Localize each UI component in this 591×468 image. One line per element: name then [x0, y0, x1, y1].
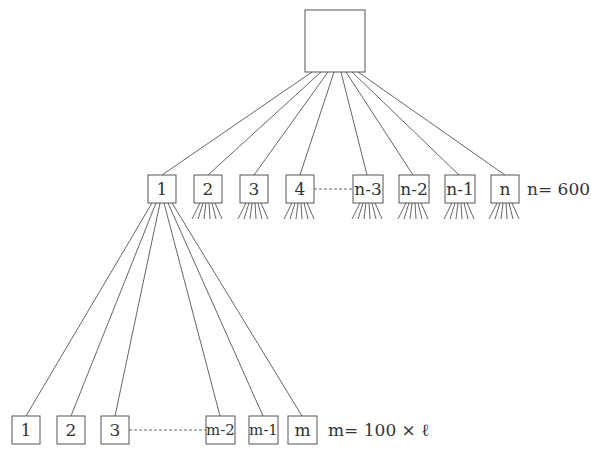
level2-node: 2 [57, 416, 85, 444]
node-label: 2 [203, 179, 214, 199]
level1-node: n-3 [353, 175, 383, 203]
m-annotation: m= 100 × ℓ [328, 420, 429, 440]
level2-node: m-2 [206, 416, 235, 444]
node-label: n-3 [354, 179, 382, 199]
level1-node: 4 [286, 175, 314, 203]
node-label: 4 [295, 179, 306, 199]
level1-node: 2 [194, 175, 222, 203]
level1-node: n-1 [445, 175, 475, 203]
level1-node: 1 [148, 175, 176, 203]
level2-node: 3 [101, 416, 129, 444]
level2-node: 1 [12, 416, 40, 444]
level2-node: m [288, 416, 317, 444]
node-label: m-2 [206, 421, 235, 439]
level2-node: m-1 [249, 416, 278, 444]
node-label: n [500, 179, 511, 199]
n-annotation: n= 600 [527, 179, 590, 199]
node-label: n-1 [446, 179, 474, 199]
level1-node: n [491, 175, 519, 203]
node-label: 2 [66, 420, 77, 440]
node-label: m [294, 420, 310, 440]
node-label: n-2 [400, 179, 428, 199]
fanout-stubs [192, 203, 519, 219]
node-label: m-1 [249, 421, 278, 439]
root-node [305, 10, 365, 72]
node-label: 3 [249, 179, 260, 199]
tree-diagram: 1 2 3 4 n-3 n-2 n-1 n n= 600 [0, 0, 591, 468]
level1-node: 3 [240, 175, 268, 203]
node-label: 3 [110, 420, 121, 440]
node-label: 1 [21, 420, 32, 440]
level1-node: n-2 [399, 175, 429, 203]
level1-nodes: 1 2 3 4 n-3 n-2 n-1 n [148, 175, 519, 203]
root-to-level1-edges [162, 72, 505, 175]
node-label: 1 [157, 179, 168, 199]
level1-to-level2-edges [26, 203, 302, 416]
